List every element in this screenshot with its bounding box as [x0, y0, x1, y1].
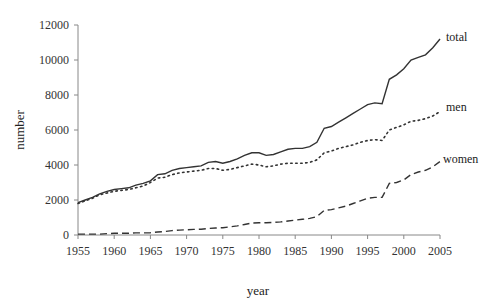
x-tick-label: 1985	[283, 244, 307, 258]
y-axis: 020004000600080001000012000	[39, 18, 78, 242]
series-labels: totalmenwomen	[443, 30, 478, 166]
x-tick-label: 1970	[175, 244, 199, 258]
x-tick-label: 1955	[66, 244, 90, 258]
series-lines	[78, 39, 440, 234]
y-tick-label: 4000	[45, 158, 69, 172]
line-chart: 020004000600080001000012000 195519601965…	[0, 0, 494, 305]
x-tick-label: 1965	[138, 244, 162, 258]
series-label-women: women	[443, 152, 478, 166]
series-line-women	[78, 162, 440, 235]
y-tick-label: 2000	[45, 193, 69, 207]
x-tick-label: 1960	[102, 244, 126, 258]
x-tick-label: 1995	[356, 244, 380, 258]
x-tick-label: 1990	[319, 244, 343, 258]
series-line-total	[78, 39, 440, 203]
y-tick-label: 10000	[39, 53, 69, 67]
y-tick-label: 8000	[45, 88, 69, 102]
x-tick-label: 2005	[428, 244, 452, 258]
x-axis: 1955196019651970197519801985199019952000…	[66, 235, 452, 258]
series-label-total: total	[446, 30, 468, 44]
x-tick-label: 2000	[392, 244, 416, 258]
series-line-men	[78, 112, 440, 204]
y-axis-title: number	[12, 109, 27, 149]
y-tick-label: 12000	[39, 18, 69, 32]
x-axis-title: year	[247, 283, 270, 298]
y-tick-label: 6000	[45, 123, 69, 137]
x-tick-label: 1980	[247, 244, 271, 258]
x-tick-label: 1975	[211, 244, 235, 258]
series-label-men: men	[446, 100, 467, 114]
y-tick-label: 0	[63, 228, 69, 242]
